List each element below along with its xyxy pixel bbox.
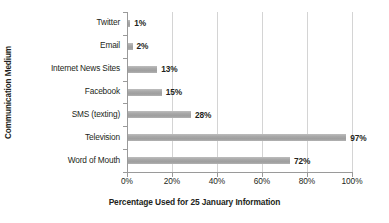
bar <box>128 134 346 141</box>
bar-value-label: 2% <box>137 41 149 51</box>
y-axis-tick <box>123 81 127 82</box>
x-axis-tick-label: 100% <box>342 176 363 186</box>
y-axis-title-text: Communication Medium <box>5 45 14 138</box>
x-axis-tick-labels: 0%20%40%60%80%100% <box>127 176 389 188</box>
y-axis-tick <box>123 149 127 150</box>
y-axis-tick <box>123 35 127 36</box>
bar-value-label: 1% <box>134 18 146 28</box>
plot-area: 1%2%13%15%28%97%72% <box>127 12 352 172</box>
bar-chart: Communication Medium TwitterEmailInterne… <box>0 0 389 223</box>
bar <box>128 89 162 96</box>
gridline <box>217 12 218 172</box>
gridline <box>262 12 263 172</box>
bar <box>128 20 130 27</box>
category-label: Internet News Sites <box>16 64 120 73</box>
bar-value-label: 15% <box>166 87 182 97</box>
bar <box>128 111 191 118</box>
bar <box>128 66 157 73</box>
x-axis-tick-label: 60% <box>254 176 270 186</box>
y-axis-tick <box>123 126 127 127</box>
gridline <box>352 12 353 172</box>
category-label: Word of Mouth <box>16 156 120 165</box>
y-axis-tick <box>123 12 127 13</box>
y-axis-tick <box>123 58 127 59</box>
category-label: Television <box>16 133 120 142</box>
category-label: Email <box>16 41 120 50</box>
x-axis-tick-label: 0% <box>121 176 133 186</box>
gridline <box>307 12 308 172</box>
x-axis-tick-label: 40% <box>209 176 225 186</box>
category-axis-labels: TwitterEmailInternet News SitesFacebookS… <box>18 12 124 172</box>
category-label: SMS (texting) <box>16 110 120 119</box>
x-axis-title: Percentage Used for 25 January Informati… <box>0 197 389 207</box>
x-axis-tick-label: 80% <box>299 176 315 186</box>
bar-value-label: 28% <box>195 110 211 120</box>
y-axis-tick <box>123 172 127 173</box>
bar-value-label: 13% <box>161 64 177 74</box>
category-label: Twitter <box>16 18 120 27</box>
x-axis-line <box>127 172 353 173</box>
bar <box>128 157 290 164</box>
y-axis-tick <box>123 103 127 104</box>
bar-value-label: 97% <box>350 133 366 143</box>
x-axis-tick-label: 20% <box>164 176 180 186</box>
bar-value-label: 72% <box>294 156 310 166</box>
bar <box>128 43 133 50</box>
category-label: Facebook <box>16 87 120 96</box>
